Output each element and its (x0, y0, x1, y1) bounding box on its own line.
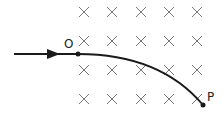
label-o: O (64, 37, 73, 51)
point-p-dot (201, 103, 206, 108)
label-p: P (207, 90, 214, 104)
magnetic-field-diagram: O P (0, 0, 224, 120)
direction-arrow-icon (47, 49, 60, 59)
curved-trajectory (78, 54, 203, 105)
point-o-dot (76, 52, 81, 57)
